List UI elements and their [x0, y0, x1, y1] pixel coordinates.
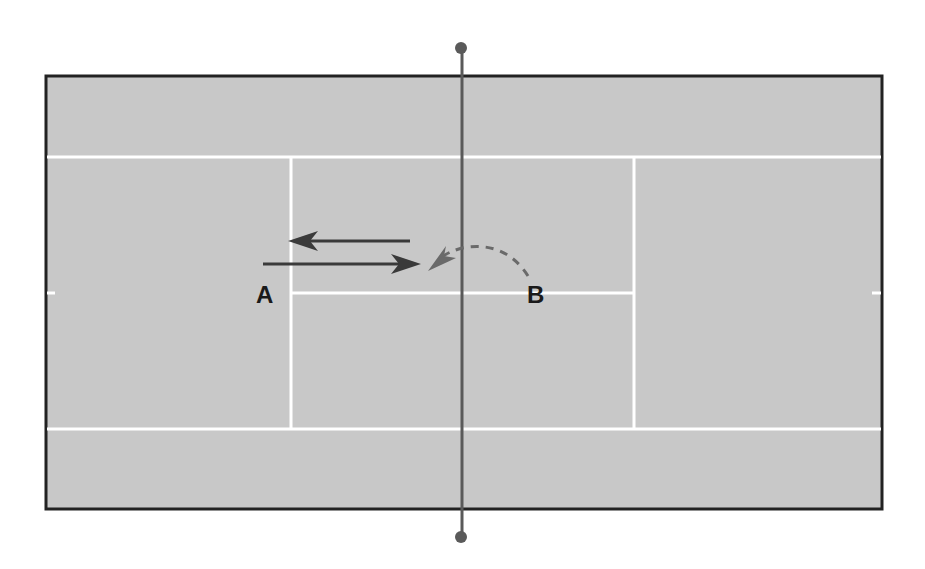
player-b-label: B: [527, 281, 544, 308]
player-a-label: A: [256, 281, 273, 308]
tennis-court-diagram: A B: [0, 0, 925, 569]
net-post-bottom: [455, 531, 467, 543]
net-post-top: [455, 42, 467, 54]
